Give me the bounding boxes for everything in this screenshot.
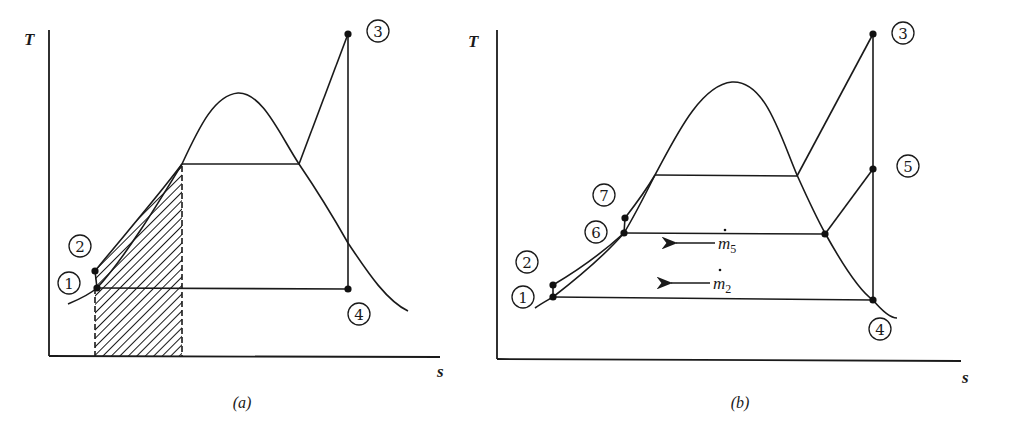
x-axis bbox=[49, 356, 440, 357]
superheat-line bbox=[797, 34, 873, 176]
flow-m2: m2 bbox=[671, 269, 731, 296]
x-axis-label: s bbox=[961, 368, 969, 387]
state-point-6 bbox=[620, 229, 627, 236]
extraction-steam-line bbox=[825, 169, 873, 234]
state-point-3 bbox=[869, 30, 876, 37]
state-point-4 bbox=[869, 296, 876, 303]
state-point-7 bbox=[621, 214, 628, 221]
condenser-line bbox=[553, 297, 873, 300]
caption-a: (a) bbox=[233, 394, 252, 412]
state-point-3 bbox=[344, 30, 351, 37]
svg-text:7: 7 bbox=[599, 187, 609, 205]
evaporation-line bbox=[655, 175, 797, 176]
state-point-5 bbox=[869, 165, 876, 172]
x-axis bbox=[497, 359, 961, 361]
label-1: 1 bbox=[512, 286, 534, 308]
svg-text:1: 1 bbox=[64, 275, 74, 293]
svg-text:2: 2 bbox=[522, 254, 532, 272]
label-4: 4 bbox=[348, 303, 370, 325]
panel-a: T s 1 2 3 bbox=[24, 20, 444, 412]
svg-text:2: 2 bbox=[75, 238, 85, 256]
hatched-area bbox=[95, 160, 183, 356]
state-point-4 bbox=[344, 285, 351, 292]
svg-text:m5: m5 bbox=[718, 234, 736, 256]
svg-text:1: 1 bbox=[518, 289, 528, 307]
state-point-1 bbox=[549, 293, 556, 300]
y-axis-label: T bbox=[468, 32, 479, 51]
state-point-1 bbox=[93, 284, 100, 291]
label-2: 2 bbox=[516, 251, 538, 273]
label-2: 2 bbox=[69, 235, 91, 257]
caption-b: (b) bbox=[731, 394, 750, 412]
svg-text:3: 3 bbox=[898, 25, 908, 43]
superheat-line bbox=[299, 34, 348, 164]
label-6: 6 bbox=[585, 221, 607, 243]
label-1: 1 bbox=[58, 272, 80, 294]
condenser-line bbox=[97, 288, 348, 289]
label-5: 5 bbox=[897, 155, 919, 177]
x-axis-label: s bbox=[436, 362, 444, 381]
svg-text:4: 4 bbox=[354, 306, 364, 324]
state-point-2 bbox=[549, 281, 556, 288]
panel-b: T s m5 m2 bbox=[468, 22, 969, 412]
svg-text:3: 3 bbox=[373, 23, 383, 41]
svg-text:m2: m2 bbox=[713, 274, 731, 296]
figure-canvas: T s 1 2 3 bbox=[0, 0, 1029, 441]
svg-text:4: 4 bbox=[875, 321, 885, 339]
intersection-point bbox=[821, 230, 828, 237]
svg-text:5: 5 bbox=[903, 158, 913, 176]
label-3: 3 bbox=[892, 22, 914, 44]
label-4: 4 bbox=[869, 318, 891, 340]
label-3: 3 bbox=[367, 20, 389, 42]
svg-text:6: 6 bbox=[591, 224, 601, 242]
y-axis-label: T bbox=[24, 30, 35, 49]
label-7: 7 bbox=[593, 184, 615, 206]
liquid-heating-curve-high bbox=[625, 175, 655, 218]
state-point-2 bbox=[91, 267, 98, 274]
